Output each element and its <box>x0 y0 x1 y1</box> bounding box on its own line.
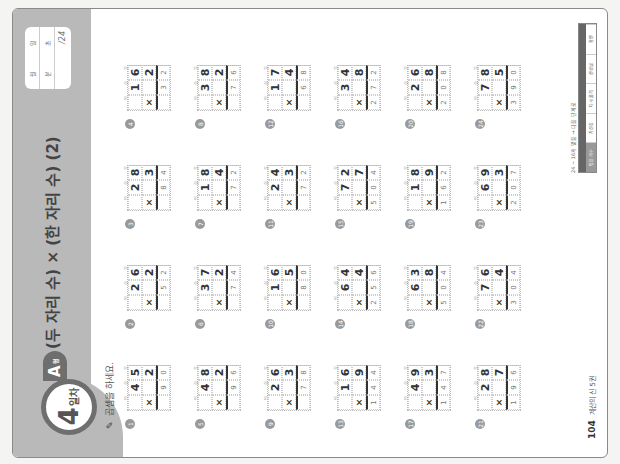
answer-digit[interactable] <box>226 295 240 310</box>
answer-digit[interactable]: 2 <box>366 295 380 310</box>
digit-cell: 3 <box>198 80 212 95</box>
answer-digit[interactable]: 5 <box>366 195 380 210</box>
ones-label: 일 <box>263 366 267 381</box>
answer-digit[interactable]: 2 <box>156 265 170 280</box>
answer-digit[interactable]: 1 <box>436 395 450 410</box>
answer-digit[interactable] <box>296 395 310 410</box>
answer-digit[interactable]: 4 <box>506 265 520 280</box>
answer-digit[interactable]: 4 <box>366 365 380 380</box>
answer-digit[interactable]: 6 <box>366 265 380 280</box>
answer-digit[interactable] <box>226 95 240 110</box>
answer-digit[interactable] <box>296 295 310 310</box>
answer-digit[interactable]: 7 <box>226 180 240 195</box>
answer-digit[interactable] <box>226 195 240 210</box>
answer-digit[interactable]: 0 <box>436 280 450 295</box>
answer-digit[interactable] <box>226 395 240 410</box>
answer-digit[interactable]: 3 <box>506 295 520 310</box>
digit-cell: 2 <box>212 265 226 280</box>
answer-digit[interactable] <box>156 95 170 110</box>
answer-digit[interactable]: 8 <box>156 180 170 195</box>
answer-digit[interactable]: 8 <box>436 65 450 80</box>
answer-digit[interactable]: 2 <box>436 165 450 180</box>
answer-digit[interactable]: 5 <box>156 280 170 295</box>
answer-digit[interactable]: 6 <box>436 180 450 195</box>
answer-digit[interactable] <box>156 295 170 310</box>
answer-digit[interactable]: 6 <box>226 65 240 80</box>
answer-digit[interactable]: 2 <box>366 95 380 110</box>
answer-digit[interactable]: 4 <box>436 265 450 280</box>
answer-digit[interactable]: 4 <box>366 380 380 395</box>
digit-cell: 6 <box>128 265 142 280</box>
tens-label: 십 <box>473 381 477 396</box>
digit-cell: 7 <box>478 80 492 95</box>
answer-digit[interactable]: 7 <box>296 180 310 195</box>
answer-digit[interactable]: 1 <box>506 395 520 410</box>
multiply-sign: × <box>352 295 366 310</box>
answer-digit[interactable]: 0 <box>436 80 450 95</box>
answer-digit[interactable]: 2 <box>366 65 380 80</box>
problem-box: 백 십 일 26×378 <box>263 365 311 411</box>
answer-digit[interactable] <box>156 195 170 210</box>
answer-digit[interactable]: 4 <box>436 380 450 395</box>
answer-digit[interactable]: 0 <box>506 180 520 195</box>
answer-digit[interactable]: 7 <box>226 280 240 295</box>
level-tab: A 형 <box>43 351 67 381</box>
digit-cell: 1 <box>408 180 422 195</box>
answer-digit[interactable]: 6 <box>226 365 240 380</box>
problem: 16 백 십 일 34×8272 <box>333 29 389 129</box>
answer-digit[interactable]: 0 <box>296 265 310 280</box>
digit-cells: 17×468 <box>267 65 311 111</box>
grading-header <box>579 142 586 172</box>
digit-cell: 4 <box>268 165 282 180</box>
problem-box: 백 십 일 16×232 <box>123 65 171 111</box>
answer-digit[interactable]: 7 <box>506 165 520 180</box>
answer-digit[interactable]: 1 <box>366 395 380 410</box>
answer-digit[interactable] <box>296 195 310 210</box>
answer-digit[interactable]: 0 <box>156 365 170 380</box>
answer-digit[interactable]: 7 <box>296 380 310 395</box>
minute-label: 분 <box>43 71 52 77</box>
answer-digit[interactable]: 0 <box>366 180 380 195</box>
answer-digit[interactable] <box>296 95 310 110</box>
answer-digit[interactable]: 7 <box>226 80 240 95</box>
problem-number: 11 <box>265 219 275 229</box>
answer-digit[interactable]: 6 <box>296 80 310 95</box>
hundreds-label: 백 <box>403 296 407 311</box>
problem: 9 백 십 일 26×378 <box>263 329 319 429</box>
answer-digit[interactable]: 9 <box>506 380 520 395</box>
multiply-sign: × <box>212 95 226 110</box>
answer-digit[interactable]: 2 <box>226 165 240 180</box>
answer-digit[interactable]: 3 <box>156 80 170 95</box>
answer-digit[interactable]: 6 <box>506 365 520 380</box>
answer-digit[interactable]: 3 <box>506 95 520 110</box>
multiply-sign: × <box>142 295 156 310</box>
answer-digit[interactable]: 0 <box>506 280 520 295</box>
answer-digit[interactable]: 8 <box>296 65 310 80</box>
problem-box: 백 십 일 37×274 <box>193 265 241 311</box>
answer-digit[interactable]: 0 <box>506 65 520 80</box>
answer-digit[interactable] <box>156 395 170 410</box>
answer-digit[interactable]: 2 <box>156 65 170 80</box>
ones-label: 일 <box>263 166 267 181</box>
answer-digit[interactable]: 5 <box>366 280 380 295</box>
answer-digit[interactable]: 4 <box>366 165 380 180</box>
answer-digit[interactable]: 2 <box>506 195 520 210</box>
answer-digit[interactable]: 2 <box>296 165 310 180</box>
problem: 22 백 십 일 76×4304 <box>473 229 529 329</box>
answer-digit[interactable]: 7 <box>436 365 450 380</box>
answer-digit[interactable]: 8 <box>296 365 310 380</box>
answer-digit[interactable]: 4 <box>226 265 240 280</box>
answer-digit[interactable]: 9 <box>226 380 240 395</box>
answer-digit[interactable]: 4 <box>156 165 170 180</box>
digit-cell: 7 <box>492 365 506 380</box>
multiply-sign: × <box>422 395 436 410</box>
answer-digit[interactable]: 1 <box>436 195 450 210</box>
answer-digit[interactable]: 9 <box>156 380 170 395</box>
tens-label: 십 <box>123 381 127 396</box>
answer-digit[interactable]: 5 <box>436 295 450 310</box>
answer-digit[interactable]: 8 <box>296 280 310 295</box>
answer-digit[interactable]: 2 <box>436 95 450 110</box>
multiply-sign: × <box>352 395 366 410</box>
answer-digit[interactable]: 9 <box>506 80 520 95</box>
answer-digit[interactable]: 7 <box>366 80 380 95</box>
